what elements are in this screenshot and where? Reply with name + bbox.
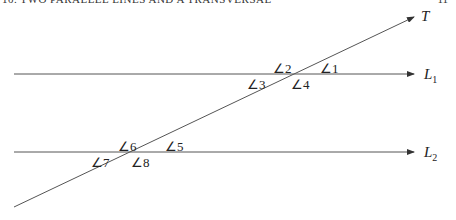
transversal-label: T [421, 9, 429, 24]
angle-8-label: ∠8 [131, 156, 150, 169]
angle-7-label: ∠7 [91, 156, 110, 169]
line1-label: L1 [424, 67, 437, 85]
diagram-canvas [0, 0, 456, 220]
angle-5-label: ∠5 [165, 140, 184, 153]
angle-1-label: ∠1 [320, 62, 339, 75]
line2-label: L2 [424, 145, 437, 163]
angle-6-label: ∠6 [118, 140, 137, 153]
transversal-t [14, 17, 414, 207]
angle-3-label: ∠3 [247, 78, 266, 91]
angle-2-label: ∠2 [273, 62, 292, 75]
angle-4-label: ∠4 [291, 78, 310, 91]
